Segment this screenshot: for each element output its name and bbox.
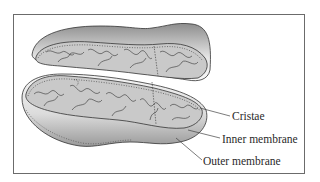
lower-half <box>22 74 207 146</box>
label-outer-membrane: Outer membrane <box>203 156 281 168</box>
upper-half <box>32 23 210 80</box>
label-inner-membrane: Inner membrane <box>222 134 298 146</box>
label-cristae: Cristae <box>232 111 265 123</box>
